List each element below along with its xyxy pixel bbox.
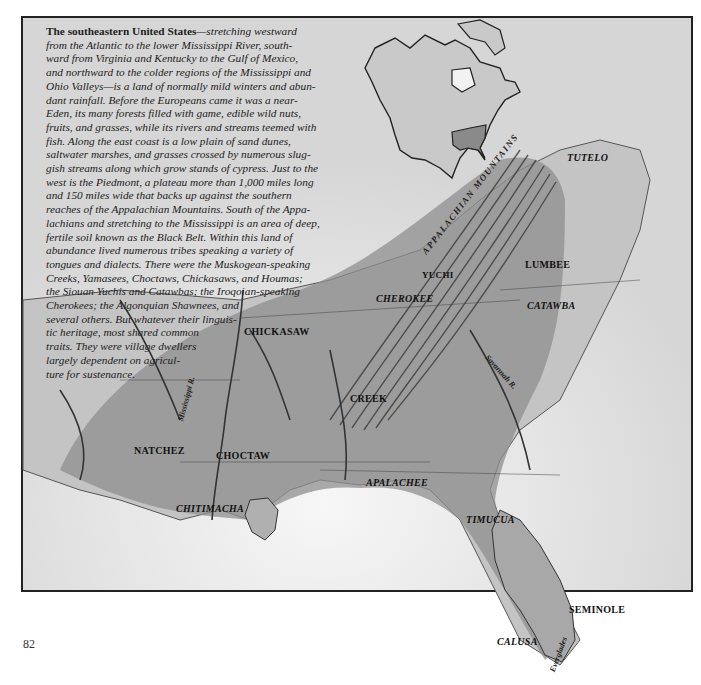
label-yuchi: YUCHI xyxy=(422,270,454,280)
label-natchez: NATCHEZ xyxy=(134,445,185,456)
label-creek: CREEK xyxy=(350,393,387,404)
label-lumbee: LUMBEE xyxy=(525,259,570,270)
label-apalachee: APALACHEE xyxy=(366,477,428,488)
label-chitimacha: CHITIMACHA xyxy=(176,503,244,514)
label-seminole: SEMINOLE xyxy=(569,604,625,615)
label-chickasaw: CHICKASAW xyxy=(244,326,310,337)
label-cherokee: CHEROKEE xyxy=(376,293,433,304)
label-timucua: TIMUCUA xyxy=(466,514,515,525)
label-calusa: CALUSA xyxy=(497,636,538,647)
caption-text: The southeastern United States—stretchin… xyxy=(46,25,358,381)
label-catawba: CATAWBA xyxy=(527,300,575,311)
label-choctaw: CHOCTAW xyxy=(216,450,270,461)
caption-lead: The southeastern United States xyxy=(46,25,196,37)
page-number: 82 xyxy=(23,637,35,652)
label-tutelo: TUTELO xyxy=(567,152,608,163)
